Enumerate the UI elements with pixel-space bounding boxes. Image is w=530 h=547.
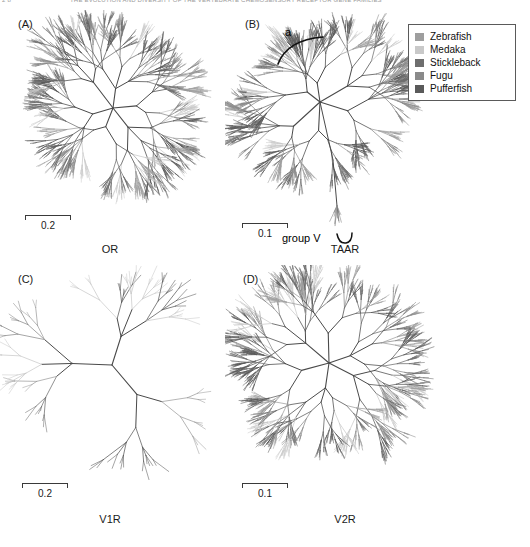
panel-d-title: V2R	[305, 513, 385, 525]
running-head-right: THE EVOLUTION AND DIVERSITY OF THE VERTE…	[70, 0, 382, 3]
panel-c-title: V1R	[70, 513, 150, 525]
legend-item: Medaka	[415, 43, 508, 56]
scalebar-c-value: 0.2	[22, 488, 68, 499]
legend-label-medaka: Medaka	[430, 43, 466, 56]
scalebar-d-value: 0.1	[242, 488, 288, 499]
legend-swatch-medaka	[415, 46, 424, 54]
scalebar-c-bar	[22, 483, 68, 488]
legend-item: Pufferfish	[415, 82, 508, 95]
scalebar-a-bar	[25, 215, 71, 220]
legend-label-pufferfish: Pufferfish	[430, 82, 472, 95]
figure-page: 2 8 THE EVOLUTION AND DIVERSITY OF THE V…	[0, 0, 530, 547]
panel-b-title: TAAR	[305, 243, 385, 255]
clade-a-arc	[273, 34, 333, 68]
scalebar-b-bar	[242, 223, 288, 228]
scalebar-d-bar	[242, 483, 288, 488]
legend-label-fugu: Fugu	[430, 69, 453, 82]
scalebar-a: 0.2	[25, 215, 71, 231]
scalebar-b: 0.1	[242, 223, 288, 239]
panel-a: (A) 0.2 OR	[0, 10, 230, 260]
legend-item: Fugu	[415, 69, 508, 82]
legend-label-stickleback: Stickleback	[430, 56, 481, 69]
legend-label-zebrafish: Zebrafish	[430, 30, 472, 43]
legend-item: Zebrafish	[415, 30, 508, 43]
panel-c: (C) 0.2 V1R	[0, 265, 230, 547]
legend-item: Stickleback	[415, 56, 508, 69]
scalebar-a-value: 0.2	[25, 220, 71, 231]
panel-d: (D) 0.1 V2R	[225, 265, 455, 547]
phylogenetic-tree-v2r	[225, 265, 455, 547]
phylogenetic-tree-v1r	[0, 265, 230, 547]
species-legend: Zebrafish Medaka Stickleback Fugu Puffer…	[408, 24, 516, 101]
legend-swatch-fugu	[415, 72, 424, 80]
panel-a-title: OR	[70, 243, 150, 255]
legend-swatch-pufferfish	[415, 85, 424, 93]
running-head-left: 2 8	[2, 0, 11, 3]
scalebar-c: 0.2	[22, 483, 68, 499]
scalebar-b-value: 0.1	[242, 228, 288, 239]
running-head: 2 8 THE EVOLUTION AND DIVERSITY OF THE V…	[0, 0, 530, 9]
legend-swatch-zebrafish	[415, 33, 424, 41]
scalebar-d: 0.1	[242, 483, 288, 499]
legend-swatch-stickleback	[415, 59, 424, 67]
